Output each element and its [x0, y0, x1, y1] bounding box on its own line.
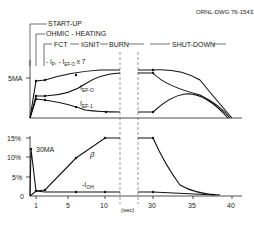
phase-fct-label: FCT: [54, 41, 68, 48]
y-tick-0: 0: [20, 193, 24, 200]
document-id: ORNL-DWG 76-15431: [196, 9, 254, 15]
diagram-canvas: ORNL-DWG 76-15431 START-UP OHMIC - HEATI…: [0, 0, 254, 226]
x-tick-5: 5: [66, 202, 70, 209]
bottom-panel-axes: [26, 136, 242, 199]
x-tick-35: 35: [188, 202, 196, 209]
x-axis-unit: (sec): [121, 207, 134, 213]
phase-ohmic-label: OHMIC - HEATING: [46, 30, 106, 37]
beta-label: β: [89, 150, 95, 159]
phase-startup-label: START-UP: [48, 20, 82, 27]
ief1-label: IEF-1: [80, 100, 93, 109]
bottom-panel-curves: [30, 138, 220, 196]
x-tick-30: 30: [148, 202, 156, 209]
ioh-label: -IOH: [82, 181, 94, 190]
y-tick-5: 5%: [12, 174, 22, 181]
phase-burn-label: BURN: [109, 41, 129, 48]
top-panel-curves: [30, 70, 232, 118]
annotation-30ma: 30MA: [36, 146, 55, 153]
y-tick-10: 10%: [7, 154, 21, 161]
x-tick-1: 1: [34, 202, 38, 209]
x-tick-10: 10: [100, 202, 108, 209]
phase-shutdown-label: SHUT-DOWN: [172, 41, 215, 48]
ip-label: - IP, - IEF-O x 7: [46, 58, 86, 67]
top-y-tick-5ma: 5MA: [8, 75, 23, 82]
phase-ignit-label: IGNIT: [81, 41, 100, 48]
axis-break-lines: [120, 52, 138, 204]
top-panel-axes: [26, 60, 242, 118]
top-panel-dots: [35, 69, 154, 113]
y-tick-15: 15%: [7, 135, 21, 142]
x-tick-40: 40: [227, 202, 235, 209]
